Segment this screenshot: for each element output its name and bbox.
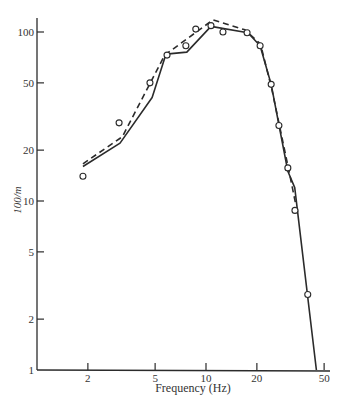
solid-curve [83,26,316,370]
data-point-marker [183,43,189,49]
x-tick-label: 2 [85,372,91,384]
data-point-marker [305,291,311,297]
data-point-marker [285,165,291,171]
chart: 12510205010025102050 Frequency (Hz) 100/… [0,0,343,406]
axis-ticks: 12510205010025102050 [18,26,331,384]
x-axis-title: Frequency (Hz) [155,381,231,395]
dashed-curve [83,20,296,205]
data-series [80,20,316,370]
axes [37,18,330,371]
data-point-marker [292,207,298,213]
data-point-marker [193,26,199,32]
data-point-marker [147,80,153,86]
x-axis-line [37,370,330,371]
y-tick-label: 10 [23,195,35,207]
y-tick-label: 2 [29,313,35,325]
data-point-marker [257,43,263,49]
x-tick-label: 20 [251,372,263,384]
x-tick-label: 50 [319,372,331,384]
data-point-marker [164,52,170,58]
data-point-marker [220,29,226,35]
y-tick-label: 50 [23,77,35,89]
data-point-marker [80,173,86,179]
data-point-marker [208,23,214,29]
data-point-marker [116,120,122,126]
data-point-marker [244,30,250,36]
y-tick-label: 100 [18,26,35,38]
data-point-marker [268,81,274,87]
y-tick-label: 5 [29,246,35,258]
y-tick-label: 20 [23,144,35,156]
data-point-marker [276,122,282,128]
y-tick-label: 1 [29,364,35,376]
y-axis-title: 100/m [11,186,23,214]
